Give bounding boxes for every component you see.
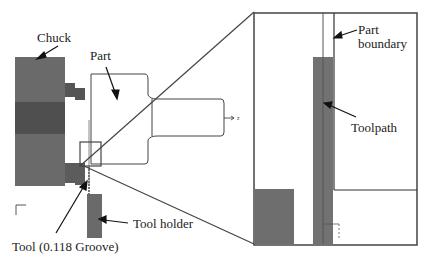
part-label: Part [90, 49, 111, 63]
axis-z-label: z [237, 115, 240, 121]
tool-holder-label: Tool holder [133, 217, 193, 231]
tool-holder [87, 194, 102, 238]
chuck [15, 57, 85, 186]
coordinate-marker-icon [16, 205, 26, 215]
magnification-lines [80, 12, 254, 244]
tool-label: Tool (0.118 Groove) [12, 240, 119, 254]
toolpath-label: Toolpath [351, 121, 397, 135]
part [89, 74, 224, 185]
part-boundary-label-line2: boundary [358, 37, 407, 51]
chuck-label: Chuck [37, 31, 71, 45]
part-boundary-label-line1: Part [358, 23, 379, 37]
z-axis-marker [224, 116, 234, 120]
